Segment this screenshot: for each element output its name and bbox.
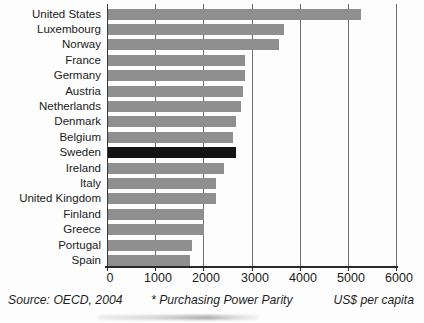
x-tick-label-2000: 2000 xyxy=(192,272,220,285)
x-tick-label-0: 0 xyxy=(107,272,114,285)
category-label: Luxembourg xyxy=(0,22,101,36)
category-label: Germany xyxy=(0,68,101,82)
x-tick-label-3000: 3000 xyxy=(241,272,269,285)
scan-artifact-smudge xyxy=(98,315,258,320)
axis-unit-label: US$ per capita xyxy=(333,293,414,307)
bar-germany xyxy=(108,70,245,81)
category-label: France xyxy=(0,53,101,67)
bar-finland xyxy=(108,209,204,220)
category-label: Sweden xyxy=(0,145,101,159)
category-label: Belgium xyxy=(0,130,101,144)
x-tick-label-4000: 4000 xyxy=(289,272,317,285)
category-label: Norway xyxy=(0,37,101,51)
category-label: United States xyxy=(0,7,101,21)
x-tick-label-5000: 5000 xyxy=(337,272,365,285)
bar-greece xyxy=(108,224,204,235)
bar-italy xyxy=(108,178,216,189)
source-note: Source: OECD, 2004 xyxy=(8,293,122,307)
bar-spain xyxy=(108,255,190,266)
category-label: Ireland xyxy=(0,161,101,175)
bar-austria xyxy=(108,86,243,97)
category-label: United Kingdom xyxy=(0,191,101,205)
bar-ireland xyxy=(108,163,224,174)
bar-norway xyxy=(108,39,279,50)
bar-portugal xyxy=(108,240,192,251)
bar-denmark xyxy=(108,116,236,127)
category-label: Finland xyxy=(0,207,101,221)
bar-netherlands xyxy=(108,101,241,112)
gridline-6000 xyxy=(396,4,397,267)
category-label: Netherlands xyxy=(0,99,101,113)
x-tick-label-6000: 6000 xyxy=(385,272,413,285)
bar-chart-figure: United StatesLuxembourgNorwayFranceGerma… xyxy=(0,0,424,323)
bar-belgium xyxy=(108,132,233,143)
category-label: Portugal xyxy=(0,238,101,252)
category-label: Italy xyxy=(0,176,101,190)
bar-luxembourg xyxy=(108,24,284,35)
bar-france xyxy=(108,55,245,66)
category-label: Greece xyxy=(0,222,101,236)
category-label: Spain xyxy=(0,253,101,267)
bar-united-kingdom xyxy=(108,193,216,204)
gridline-4000 xyxy=(300,4,301,267)
bar-sweden xyxy=(108,147,236,158)
category-label: Austria xyxy=(0,84,101,98)
plot-area: United StatesLuxembourgNorwayFranceGerma… xyxy=(0,0,424,323)
ppp-footnote: * Purchasing Power Parity xyxy=(151,293,293,307)
category-label: Denmark xyxy=(0,114,101,128)
x-tick-label-1000: 1000 xyxy=(144,272,172,285)
gridline-5000 xyxy=(348,4,349,267)
bar-united-states xyxy=(108,9,361,20)
